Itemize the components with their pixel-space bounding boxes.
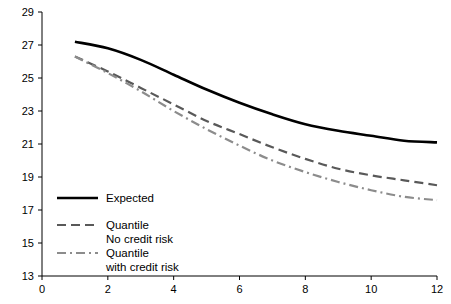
y-axis-tick-label: 13 — [22, 270, 34, 282]
legend-label-1: No credit risk — [106, 233, 173, 245]
y-axis-tick-label: 19 — [22, 171, 34, 183]
legend-label-0: Expected — [106, 192, 154, 204]
line-chart: 131517192123252729024681012ExpectedQuant… — [0, 0, 451, 304]
y-axis-tick-label: 25 — [22, 72, 34, 84]
x-axis-tick-label: 2 — [105, 283, 111, 295]
series-line-2 — [75, 57, 437, 201]
x-axis-tick-label: 0 — [39, 283, 45, 295]
x-axis-tick-label: 4 — [171, 283, 177, 295]
x-axis-tick-label: 12 — [431, 283, 443, 295]
series-line-0 — [75, 42, 437, 143]
y-axis-tick-label: 15 — [22, 237, 34, 249]
legend-label-2: Quantile — [106, 247, 149, 259]
legend-label-1: Quantile — [106, 219, 149, 231]
y-axis-tick-label: 17 — [22, 204, 34, 216]
series-line-1 — [75, 57, 437, 186]
x-axis-tick-label: 10 — [365, 283, 377, 295]
chart-container: 131517192123252729024681012ExpectedQuant… — [0, 0, 451, 304]
x-axis-tick-label: 6 — [236, 283, 242, 295]
legend-label-2: with credit risk — [105, 261, 179, 273]
y-axis-tick-label: 27 — [22, 39, 34, 51]
y-axis-tick-label: 21 — [22, 138, 34, 150]
plot-area: 131517192123252729024681012ExpectedQuant… — [22, 6, 443, 295]
x-axis-tick-label: 8 — [302, 283, 308, 295]
y-axis-tick-label: 23 — [22, 105, 34, 117]
y-axis-tick-label: 29 — [22, 6, 34, 18]
